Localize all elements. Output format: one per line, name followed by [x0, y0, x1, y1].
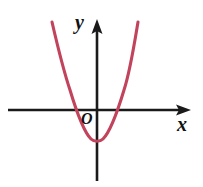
- graph-figure: y x O: [0, 0, 203, 187]
- y-axis-label: y: [75, 12, 84, 32]
- parabola-curve: [52, 22, 138, 141]
- x-axis-group: [8, 105, 191, 116]
- x-axis-label: x: [177, 114, 187, 134]
- y-axis-group: [92, 19, 103, 181]
- coordinate-plane-svg: [0, 0, 203, 187]
- origin-label: O: [81, 111, 93, 127]
